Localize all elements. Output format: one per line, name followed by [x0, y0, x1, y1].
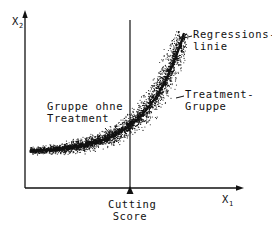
regression-line-label: Regressions- linie [193, 28, 272, 52]
control-group-label: Gruppe ohne Treatment [47, 100, 123, 124]
x-axis-label: X1 [222, 193, 233, 210]
cutting-score-label: Cutting Score [108, 198, 152, 222]
cutting-score-arrow-icon [127, 186, 134, 194]
treatment-group-leader [176, 96, 184, 98]
x-axis-arrowhead-icon [236, 185, 244, 190]
treatment-group-label: Treatment- Gruppe [185, 88, 254, 112]
y-axis-label: X2 [12, 15, 23, 32]
